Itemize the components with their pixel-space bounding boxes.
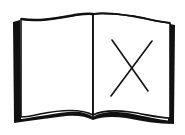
open-book-illustration	[0, 0, 185, 135]
open-book-x-icon	[0, 0, 185, 135]
left-cover-edge	[13, 20, 21, 120]
right-page	[93, 13, 170, 118]
left-page	[21, 14, 93, 117]
